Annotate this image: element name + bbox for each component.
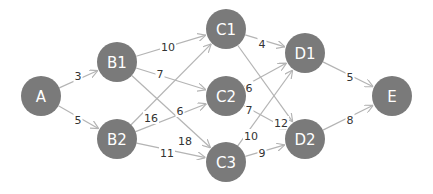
node-e: E <box>372 76 412 116</box>
node-label: E <box>387 88 396 106</box>
nodes-layer: AB1B2C1C2C3D1D2E <box>21 9 412 182</box>
node-c2: C2 <box>206 76 246 116</box>
edge-weight-label: 11 <box>160 147 174 160</box>
edge-weight-label: 6 <box>246 82 253 95</box>
edge-weight-label: 3 <box>75 70 82 83</box>
edge-weight-label: 12 <box>274 117 288 130</box>
node-label: C3 <box>216 154 236 172</box>
edge-weight-label: 7 <box>157 68 164 81</box>
node-label: C1 <box>216 21 236 39</box>
node-c1: C1 <box>206 9 246 49</box>
node-label: B2 <box>107 131 127 149</box>
node-label: C2 <box>216 88 236 106</box>
edge-weight-label: 4 <box>259 38 266 51</box>
graph-canvas: 3510718166114126710958 AB1B2C1C2C3D1D2E <box>0 0 433 194</box>
edge-b1-c2 <box>136 68 206 90</box>
node-a: A <box>21 76 61 116</box>
node-d2: D2 <box>285 119 325 159</box>
edge-weight-label: 6 <box>177 105 184 118</box>
node-b2: B2 <box>97 119 137 159</box>
edge-weight-label: 8 <box>347 114 354 127</box>
edge-weight-label: 10 <box>244 130 258 143</box>
node-b1: B1 <box>97 42 137 82</box>
edge-weight-label: 5 <box>347 71 354 84</box>
node-label: D1 <box>294 45 315 63</box>
edge-weight-label: 10 <box>161 41 175 54</box>
edge-weight-label: 5 <box>75 114 82 127</box>
edge-weight-label: 18 <box>178 135 192 148</box>
node-label: A <box>36 88 47 106</box>
weighted-graph-diagram: 3510718166114126710958 AB1B2C1C2C3D1D2E <box>0 0 433 194</box>
node-label: B1 <box>107 54 127 72</box>
edge-weight-label: 7 <box>246 104 253 117</box>
edge-weight-label: 16 <box>144 112 158 125</box>
node-label: D2 <box>294 131 315 149</box>
edge-weight-label: 9 <box>259 147 266 160</box>
node-d1: D1 <box>285 33 325 73</box>
node-c3: C3 <box>206 142 246 182</box>
